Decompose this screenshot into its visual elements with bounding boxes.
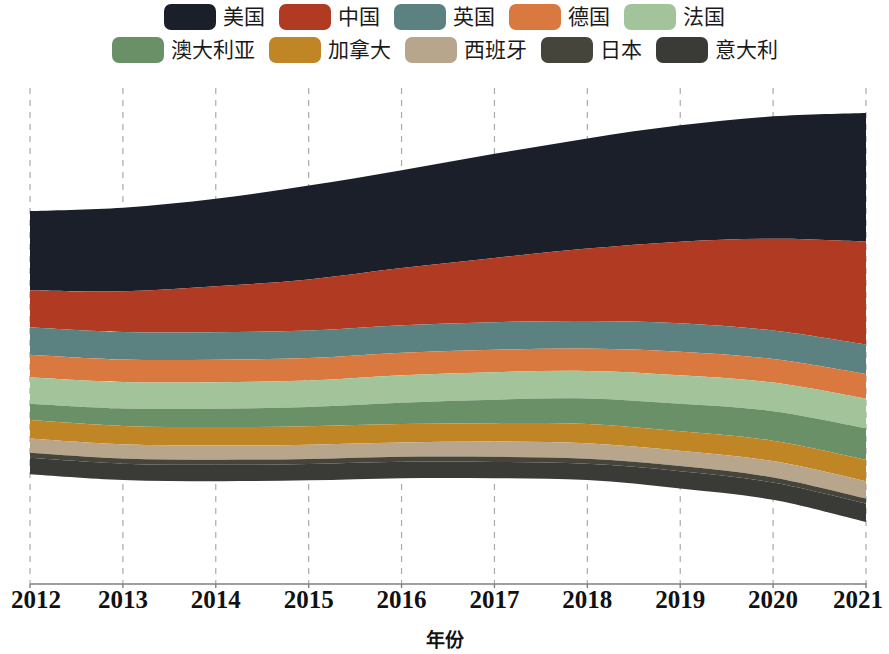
legend-label: 中国 [338, 7, 380, 28]
legend-item-日本[interactable]: 日本 [541, 37, 642, 63]
x-tick-label: 2021 [833, 586, 883, 614]
legend-label: 日本 [600, 40, 642, 61]
legend-item-中国[interactable]: 中国 [279, 4, 380, 30]
x-tick-label: 2020 [748, 586, 798, 614]
legend-item-美国[interactable]: 美国 [164, 4, 265, 30]
plot-area [0, 88, 889, 588]
x-axis-title: 年份 [0, 625, 889, 652]
legend-swatch-icon [279, 4, 331, 30]
legend-label: 法国 [683, 7, 725, 28]
legend-label: 德国 [568, 7, 610, 28]
legend-swatch-icon [394, 4, 446, 30]
legend-swatch-icon [269, 37, 321, 63]
legend-label: 美国 [223, 7, 265, 28]
legend-item-西班牙[interactable]: 西班牙 [405, 37, 527, 63]
legend-item-加拿大[interactable]: 加拿大 [269, 37, 391, 63]
legend-swatch-icon [624, 4, 676, 30]
legend-swatch-icon [509, 4, 561, 30]
legend-swatch-icon [656, 37, 708, 63]
legend-label: 英国 [453, 7, 495, 28]
legend-label: 加拿大 [328, 40, 391, 61]
chart-root: 美国中国英国德国法国澳大利亚加拿大西班牙日本意大利 20122013201420… [0, 0, 889, 654]
x-tick-label: 2019 [655, 586, 705, 614]
x-tick-label: 2017 [469, 586, 519, 614]
x-tick-label: 2015 [284, 586, 334, 614]
legend-label: 西班牙 [464, 40, 527, 61]
legend-row: 澳大利亚加拿大西班牙日本意大利 [112, 37, 778, 63]
x-tick-label: 2012 [11, 586, 61, 614]
legend-item-德国[interactable]: 德国 [509, 4, 610, 30]
chart-legend: 美国中国英国德国法国澳大利亚加拿大西班牙日本意大利 [0, 4, 889, 63]
x-axis-tick-labels: 2012201320142015201620172018201920202021 [0, 586, 889, 616]
legend-swatch-icon [112, 37, 164, 63]
legend-row: 美国中国英国德国法国 [164, 4, 725, 30]
stream-layers [30, 113, 866, 522]
legend-swatch-icon [405, 37, 457, 63]
x-tick-label: 2018 [562, 586, 612, 614]
legend-item-法国[interactable]: 法国 [624, 4, 725, 30]
legend-label: 意大利 [715, 40, 778, 61]
legend-label: 澳大利亚 [171, 40, 255, 61]
legend-swatch-icon [541, 37, 593, 63]
x-tick-label: 2014 [191, 586, 241, 614]
streamgraph-svg [0, 88, 889, 588]
x-tick-label: 2013 [98, 586, 148, 614]
legend-item-意大利[interactable]: 意大利 [656, 37, 778, 63]
legend-item-英国[interactable]: 英国 [394, 4, 495, 30]
legend-swatch-icon [164, 4, 216, 30]
x-tick-label: 2016 [377, 586, 427, 614]
legend-item-澳大利亚[interactable]: 澳大利亚 [112, 37, 255, 63]
